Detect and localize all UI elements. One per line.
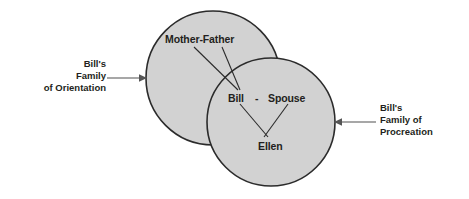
label-orientation-line1: Bill's (18, 58, 106, 70)
label-family-of-orientation: Bill's Family of Orientation (18, 58, 106, 95)
label-orientation-line2: Family (18, 70, 106, 82)
node-label-ellen: Ellen (258, 140, 283, 152)
label-procreation-line3: Procreation (380, 126, 466, 138)
label-family-of-procreation: Bill's Family of Procreation (380, 102, 466, 139)
family-of-procreation-circle (207, 58, 335, 186)
label-orientation-line3: of Orientation (18, 82, 106, 94)
node-label-marriage-dash: - (255, 92, 258, 104)
label-procreation-line2: Family of (380, 114, 466, 126)
node-label-spouse: Spouse (268, 92, 305, 104)
venn-diagram: Bill's Family of Orientation Bill's Fami… (0, 0, 469, 199)
node-label-bill: Bill (228, 92, 244, 104)
node-label-mother-father: Mother-Father (165, 33, 234, 45)
label-procreation-line1: Bill's (380, 102, 466, 114)
